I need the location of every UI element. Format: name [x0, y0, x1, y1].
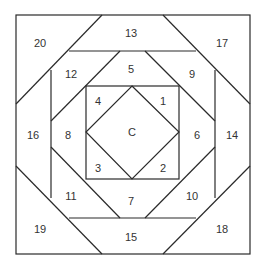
- piece-label-16: 16: [27, 129, 39, 141]
- piece-label-5: 5: [128, 63, 134, 75]
- piece-label-10: 10: [186, 190, 198, 202]
- piece-label-15: 15: [125, 231, 137, 243]
- piece-label-18: 18: [216, 223, 228, 235]
- piece-label-9: 9: [189, 68, 195, 80]
- piece-label-11: 11: [65, 190, 76, 202]
- piece-label-2: 2: [160, 162, 166, 174]
- piece-label-c: C: [128, 126, 136, 138]
- piece-label-1: 1: [160, 95, 166, 107]
- piece-label-14: 14: [226, 129, 238, 141]
- piece-label-13: 13: [125, 27, 137, 39]
- piece-label-8: 8: [65, 129, 71, 141]
- piece-label-19: 19: [34, 223, 46, 235]
- quilt-block-diagram: C 1 2 3 4 5 6 7 8 9 10 11 12 13 14 15 16…: [0, 0, 261, 266]
- piece-label-4: 4: [95, 95, 101, 107]
- piece-label-6: 6: [194, 129, 200, 141]
- seam-10: [145, 147, 215, 218]
- piece-label-3: 3: [95, 162, 101, 174]
- piece-label-20: 20: [34, 37, 46, 49]
- seam-17: [163, 15, 250, 104]
- piece-label-12: 12: [65, 68, 77, 80]
- seam-20: [16, 15, 102, 104]
- piece-label-17: 17: [216, 37, 228, 49]
- piece-label-7: 7: [128, 195, 134, 207]
